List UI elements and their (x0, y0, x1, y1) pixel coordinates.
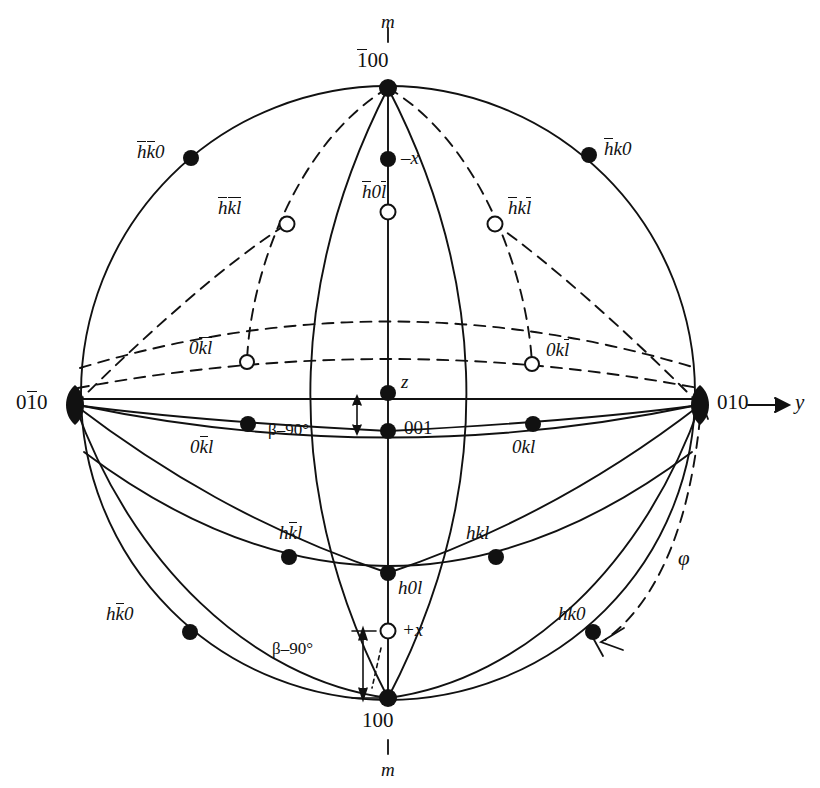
phi-label: φ (678, 548, 690, 569)
pole-top-marker (379, 79, 397, 97)
label-hkl-upper-right: hkl (508, 198, 531, 217)
zone-arc-right-flat (388, 405, 700, 431)
label-hk0-lower-left: hk0 (106, 604, 133, 623)
marker-0kl-upper-left (240, 355, 254, 369)
label-hkl-upper-left: hkl (218, 198, 241, 217)
dashed-phi-arc (605, 418, 700, 640)
label-hkl-lower-left: hkl (279, 523, 302, 542)
beta-label-top: β–90° (268, 421, 309, 438)
beta-top-indicator (353, 396, 361, 434)
zone-arc-left-flat (75, 405, 388, 431)
y-axis-arrow-icon (748, 398, 789, 412)
label-plus-x: +x (402, 620, 423, 639)
marker-hk0-lower-left (182, 624, 198, 640)
label-h0l-lower: h0l (398, 578, 422, 597)
marker-hk0-lower-right (585, 624, 601, 640)
phi-arrowhead (601, 628, 624, 650)
label-0kl-lower-left: 0kl (190, 437, 213, 456)
label-hkl-lower-right: hkl (466, 523, 489, 542)
label-z-point: z (401, 372, 408, 391)
projection-drawing (0, 0, 820, 788)
marker-0kl-lower-right (525, 416, 541, 432)
label-0kl-lower-right: 0kl (512, 437, 535, 456)
dashed-zone-left-from-pole (75, 224, 287, 405)
marker-hkl-lower-right (488, 549, 504, 565)
label-hk0-upper-right: hk0 (604, 139, 631, 158)
zone-arc-right-inner (388, 88, 466, 698)
marker-hkl-lower-left (281, 549, 297, 565)
pole-label-top: 100 (357, 50, 389, 71)
y-axis-label: y (795, 392, 804, 413)
pole-label-right: 010 (717, 392, 749, 413)
marker-0kl-upper-right (525, 357, 539, 371)
mirror-label-bottom: m (381, 760, 395, 779)
label-minus-x: –x (401, 148, 419, 167)
marker-h0l-upper (381, 205, 396, 220)
marker-hk0-upper-right (581, 147, 597, 163)
zone-arc-left-outer (75, 405, 388, 698)
mirror-label-top: m (381, 12, 395, 31)
label-0kl-upper-right: 0kl (546, 340, 569, 359)
label-hk0-upper-left: hk0 (137, 142, 164, 161)
pole-bottom-marker (379, 689, 397, 707)
label-hk0-lower-right: hk0 (558, 604, 585, 623)
marker-minus-x (380, 151, 396, 167)
label-h0l-upper: h0l (362, 182, 386, 201)
pole-label-left: 010 (16, 392, 48, 413)
marker-plus-x (381, 624, 396, 639)
marker-hkl-upper-right (488, 217, 503, 232)
label-0kl-upper-left: 0kl (189, 338, 212, 357)
zone-arc-right-outer (388, 405, 700, 698)
beta-label-bottom: β–90° (272, 640, 313, 657)
label-001-point: 001 (404, 418, 433, 437)
pole-label-bottom: 100 (362, 710, 394, 731)
zone-arc-left-inner (310, 88, 388, 698)
stereographic-projection-figure: m 100 100 m 010 010 y hk0 hk0 hk0 hk0 –x… (0, 0, 820, 788)
marker-hk0-upper-left (183, 150, 199, 166)
marker-h0l-lower (380, 565, 396, 581)
point-markers (182, 147, 601, 640)
marker-hkl-upper-left (280, 217, 295, 232)
marker-001-point (380, 423, 396, 439)
marker-0kl-lower-left (240, 416, 256, 432)
marker-z-point (380, 385, 396, 401)
